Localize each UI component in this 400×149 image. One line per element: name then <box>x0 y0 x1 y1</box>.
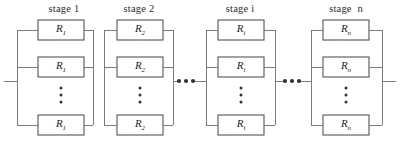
ellipsis-between-2-and-i-dot-2 <box>184 79 188 83</box>
stage-2-vertical-ellipsis-dot-3 <box>139 101 142 104</box>
block-subscript: n <box>348 66 352 74</box>
stage-1-block-label-2: R1 <box>38 60 84 74</box>
stage-1-block-label-1: R1 <box>38 23 84 37</box>
stage-2-block-label-1: R2 <box>117 23 163 37</box>
stage-2-caption: stage 2 <box>111 3 167 14</box>
stage-n-block-label-2: Rn <box>323 60 369 74</box>
stage-i-block-label-3: Ri <box>218 118 264 132</box>
stage-i-block-label-2: Ri <box>218 60 264 74</box>
stage-2-block-label-3: R2 <box>117 118 163 132</box>
block-symbol: R <box>56 22 63 34</box>
block-subscript: i <box>243 29 245 37</box>
stage-1-caption: stage 1 <box>36 3 92 14</box>
block-subscript: 1 <box>63 66 67 74</box>
block-symbol: R <box>341 59 348 71</box>
stage-i-vertical-ellipsis-dot-2 <box>240 94 243 97</box>
stage-1-vertical-ellipsis-dot-3 <box>60 101 63 104</box>
ellipsis-between-i-and-n-dot-2 <box>290 79 294 83</box>
stage-2-vertical-ellipsis-dot-2 <box>139 94 142 97</box>
block-subscript: 1 <box>63 124 67 132</box>
block-symbol: R <box>56 117 63 129</box>
stage-n-caption: stage n <box>316 3 376 14</box>
reliability-block-diagram: R1R1R1stage 1R2R2R2stage 2RiRiRistage iR… <box>0 0 400 149</box>
block-subscript: 2 <box>142 124 146 132</box>
stage-n-block-label-3: Rn <box>323 118 369 132</box>
stage-n-vertical-ellipsis-dot-2 <box>345 94 348 97</box>
block-subscript: n <box>348 29 352 37</box>
block-symbol: R <box>56 59 63 71</box>
stage-1-vertical-ellipsis-dot-2 <box>60 94 63 97</box>
block-subscript: i <box>243 66 245 74</box>
stage-1-block-label-3: R1 <box>38 118 84 132</box>
stage-n-vertical-ellipsis-dot-3 <box>345 101 348 104</box>
block-subscript: 2 <box>142 66 146 74</box>
block-subscript: i <box>243 124 245 132</box>
block-symbol: R <box>135 59 142 71</box>
ellipsis-between-2-and-i-dot-1 <box>177 79 181 83</box>
stage-i-block-label-1: Ri <box>218 23 264 37</box>
stage-2-block-label-2: R2 <box>117 60 163 74</box>
block-symbol: R <box>135 22 142 34</box>
stage-i-caption: stage i <box>212 3 268 14</box>
block-subscript: 1 <box>63 29 67 37</box>
stage-i-vertical-ellipsis-dot-3 <box>240 101 243 104</box>
stage-i-vertical-ellipsis-dot-1 <box>240 87 243 90</box>
block-symbol: R <box>341 22 348 34</box>
stage-n-vertical-ellipsis-dot-1 <box>345 87 348 90</box>
ellipsis-between-i-and-n-dot-1 <box>283 79 287 83</box>
stage-2-vertical-ellipsis-dot-1 <box>139 87 142 90</box>
ellipsis-between-i-and-n-dot-3 <box>297 79 301 83</box>
stage-1-vertical-ellipsis-dot-1 <box>60 87 63 90</box>
ellipsis-between-2-and-i-dot-3 <box>191 79 195 83</box>
stage-n-block-label-1: Rn <box>323 23 369 37</box>
block-subscript: n <box>348 124 352 132</box>
block-subscript: 2 <box>142 29 146 37</box>
block-symbol: R <box>341 117 348 129</box>
block-symbol: R <box>135 117 142 129</box>
